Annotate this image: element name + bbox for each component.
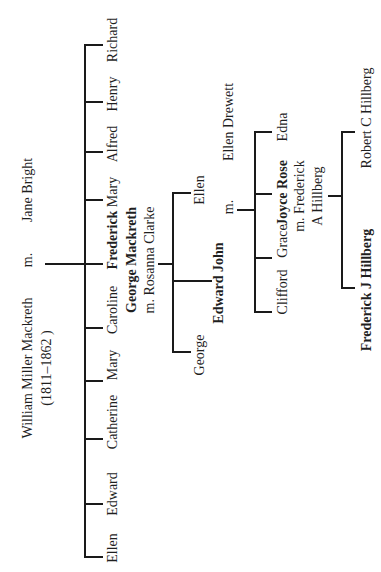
tick-clifford <box>254 311 272 313</box>
child-joyce-rose: Joyce Rose <box>276 160 290 226</box>
child-edna: Edna <box>276 113 290 142</box>
tick-edward-john <box>172 280 212 282</box>
tick-caroline <box>84 327 103 329</box>
child-mary-1: Mary <box>106 350 120 380</box>
frederick-children-bracket <box>172 192 174 352</box>
edward-children-bracket <box>254 131 256 312</box>
child-george: George <box>193 335 207 376</box>
tick-alfred <box>84 151 103 153</box>
child-catherine: Catherine <box>106 395 120 449</box>
child-mary-2: Mary <box>106 177 120 207</box>
tick-edna <box>254 131 272 133</box>
tick-edward <box>84 503 103 505</box>
root-spouse-name: Jane Bright <box>21 158 35 222</box>
tick-mary-1 <box>84 380 103 382</box>
children-bracket-line <box>84 44 86 557</box>
joyce-children-bracket <box>341 131 343 288</box>
child-alfred: Alfred <box>106 126 120 163</box>
child-ellen-l2: Ellen <box>193 175 207 205</box>
root-person-name: William Miller Mackreth <box>21 298 35 439</box>
tick-robert <box>341 131 355 133</box>
child-frederick-line2: George Mackreth <box>125 207 139 313</box>
edward-john-marriage-label: m. <box>222 200 236 214</box>
edward-john-spouse: Ellen Drewett <box>222 83 236 161</box>
child-caroline: Caroline <box>106 286 120 334</box>
tick-henry <box>84 101 103 103</box>
frederick-connector <box>158 263 173 265</box>
child-henry: Henry <box>106 77 120 112</box>
joyce-spouse-line1: m. Frederick <box>293 160 307 232</box>
child-robert-c-hillberg: Robert C Hillberg <box>360 68 374 169</box>
child-frederick-line1: Frederick <box>106 211 120 270</box>
root-marriage-connector <box>45 263 103 265</box>
child-frederick-j-hillberg: Frederick J Hillberg <box>360 229 374 352</box>
tick-grace <box>254 257 272 259</box>
tick-george <box>172 351 191 353</box>
joyce-connector <box>328 195 342 197</box>
child-ellen: Ellen <box>106 533 120 563</box>
tick-richard <box>84 44 103 46</box>
tick-joyce <box>254 193 272 195</box>
joyce-spouse-line2: A Hillberg <box>311 166 325 225</box>
tick-frederick-j <box>341 287 355 289</box>
child-richard: Richard <box>106 18 120 62</box>
family-tree-diagram: William Miller Mackreth (1811–1862 ) m. … <box>0 0 381 572</box>
child-clifford: Clifford <box>276 270 290 315</box>
root-marriage-label: m. <box>21 253 35 267</box>
tick-catherine <box>84 438 103 440</box>
child-grace: Grace <box>276 224 290 257</box>
tick-mary-2 <box>84 199 103 201</box>
root-person-dates: (1811–1862 ) <box>40 330 54 405</box>
edward-john-connector <box>237 209 255 211</box>
tick-ellen <box>84 556 103 558</box>
frederick-spouse: m. Rosanna Clarke <box>143 207 157 314</box>
tick-ellen-l2 <box>172 192 191 194</box>
child-edward-john: Edward John <box>212 242 226 323</box>
child-edward: Edward <box>106 472 120 516</box>
